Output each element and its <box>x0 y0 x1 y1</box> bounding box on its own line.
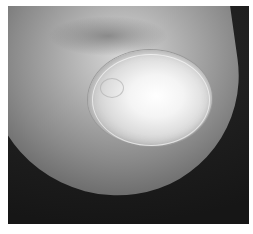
nail-rim <box>92 54 210 146</box>
nail-spot <box>100 78 124 98</box>
clinical-photo <box>8 6 249 224</box>
